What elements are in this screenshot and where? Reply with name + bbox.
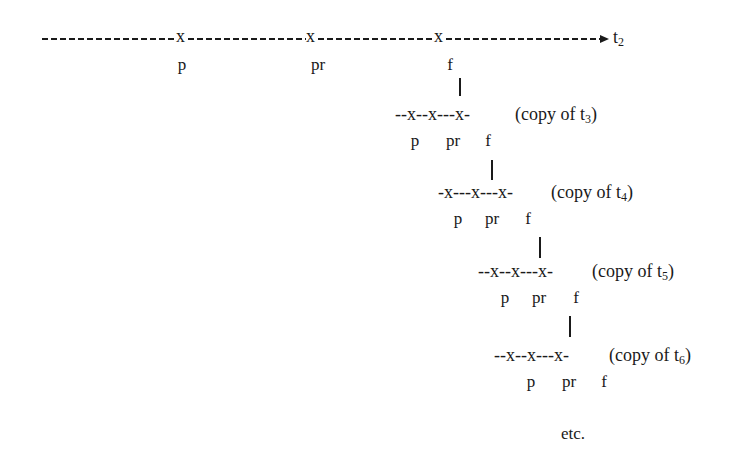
label-pr: pr [485, 210, 499, 227]
marker-pr: x [306, 27, 315, 45]
marker-f: x [434, 27, 443, 45]
marker-p: x [176, 27, 185, 45]
copy-caption: (copy of t5) [592, 262, 674, 282]
copy-caption: (copy of t4) [551, 183, 633, 203]
arrow-head-icon [600, 35, 609, 43]
label-p: p [178, 56, 187, 73]
copy-line: -x---x---x- [438, 183, 513, 201]
etc-footer: etc. [561, 425, 585, 442]
label-pr: pr [446, 132, 460, 149]
timeline-segment-3 [318, 38, 434, 40]
copy-caption: (copy of t3) [515, 105, 597, 125]
connector-1 [459, 78, 461, 96]
label-p: p [501, 289, 510, 306]
label-pr: pr [532, 289, 546, 306]
timeline-segment-1 [42, 38, 176, 40]
connector-4 [569, 316, 571, 337]
connector-3 [539, 237, 541, 258]
copy-line: --x--x---x- [478, 262, 553, 280]
timeline-segment-4 [446, 38, 602, 40]
label-f: f [525, 210, 531, 227]
label-pr: pr [562, 373, 576, 390]
label-pr: pr [311, 56, 325, 73]
connector-2 [491, 160, 493, 180]
timeline-label: t2 [613, 28, 624, 48]
copy-line: --x--x---x- [395, 105, 470, 123]
label-f: f [485, 132, 491, 149]
label-f: f [573, 289, 579, 306]
copy-line: --x--x---x- [494, 346, 569, 364]
label-p: p [411, 132, 420, 149]
label-p: p [527, 373, 536, 390]
label-f: f [447, 56, 453, 73]
copy-caption: (copy of t6) [609, 346, 691, 366]
label-p: p [454, 210, 463, 227]
label-f: f [601, 373, 607, 390]
timeline-segment-2 [188, 38, 306, 40]
